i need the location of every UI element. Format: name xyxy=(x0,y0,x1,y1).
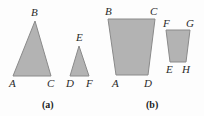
vertex-label-c: C xyxy=(150,6,157,17)
triangle-abc xyxy=(13,21,51,76)
vertex-label-f: F xyxy=(163,18,170,29)
vertex-label-e: E xyxy=(166,64,173,75)
vertex-label-d: D xyxy=(66,78,74,89)
vertex-label-f: F xyxy=(86,78,93,89)
vertex-label-g: G xyxy=(186,18,194,29)
vertex-label-a: A xyxy=(9,78,16,89)
trapezoid-fghe xyxy=(166,30,190,62)
panel-caption-a: (a) xyxy=(42,100,54,110)
triangle-def xyxy=(70,46,89,76)
trapezoid-abcd xyxy=(108,19,155,75)
vertex-label-a: A xyxy=(112,78,119,89)
vertex-label-h: H xyxy=(182,64,190,75)
geometry-figure: BACEDF(a)BCADFGEH(b) xyxy=(0,0,204,116)
vertex-label-e: E xyxy=(76,32,83,43)
vertex-label-c: C xyxy=(47,78,54,89)
panel-caption-b: (b) xyxy=(146,100,158,110)
vertex-label-b: B xyxy=(31,7,38,18)
vertex-label-b: B xyxy=(105,6,112,17)
vertex-label-d: D xyxy=(144,78,152,89)
